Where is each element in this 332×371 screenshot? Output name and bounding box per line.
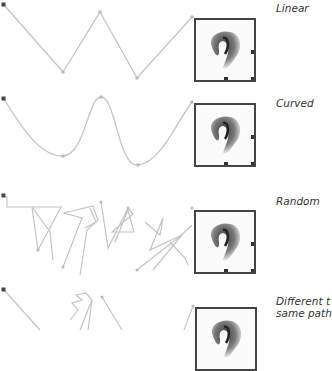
object-frame: [194, 103, 256, 167]
object-frame: [195, 307, 257, 371]
panel-curved: Curved: [0, 85, 324, 170]
panel-timing: Different t same path: [0, 255, 324, 328]
start-anchor-icon: [2, 194, 6, 198]
fortune-cookie-image: [205, 113, 245, 157]
label-linear: Linear: [276, 2, 309, 14]
panel-random: Random: [0, 170, 324, 255]
fortune-cookie-image: [206, 317, 246, 361]
label-curved: Curved: [276, 97, 314, 109]
object-frame: [194, 18, 256, 82]
start-anchor-icon: [2, 288, 6, 292]
label-random: Random: [276, 195, 320, 207]
random-motion-path: [0, 170, 324, 255]
start-anchor-icon: [2, 97, 6, 101]
start-anchor-icon: [2, 3, 6, 7]
label-timing-line1: Different t: [276, 295, 330, 307]
label-timing-line2: same path: [276, 307, 332, 319]
fortune-cookie-image: [205, 28, 245, 72]
panel-linear: Linear: [0, 0, 324, 85]
